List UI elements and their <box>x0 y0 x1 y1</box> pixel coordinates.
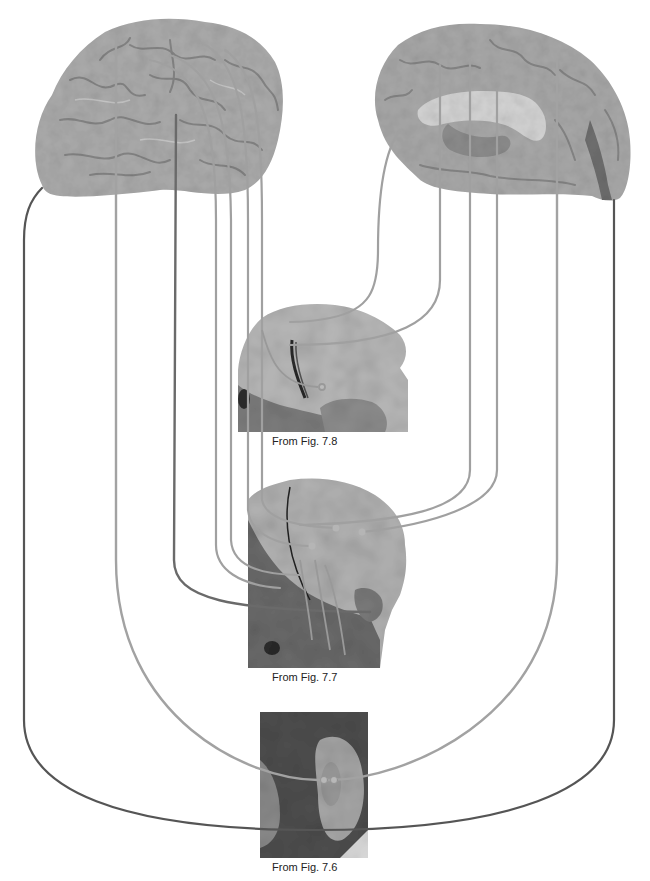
caption-fig-7-7: From Fig. 7.7 <box>272 671 337 683</box>
caption-fig-7-8: From Fig. 7.8 <box>272 435 337 447</box>
medial-brain <box>375 24 631 201</box>
lateral-brain <box>35 19 283 197</box>
caption-fig-7-6: From Fig. 7.6 <box>272 861 337 873</box>
section-fig-7-6 <box>260 712 368 858</box>
section-fig-7-8 <box>238 304 408 432</box>
